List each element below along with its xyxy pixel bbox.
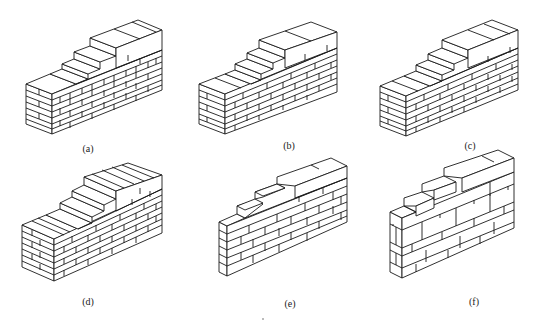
figure-caption-b: (b) <box>283 140 295 151</box>
figure-caption-c: (c) <box>464 140 475 151</box>
brick-wall-figure-c <box>376 16 526 141</box>
brick-wall-figure-a <box>20 12 170 137</box>
brick-wall-figure-d <box>18 163 168 288</box>
figure-caption-e: (e) <box>284 298 295 309</box>
stray-mark <box>262 318 264 320</box>
brick-wall-figure-b <box>195 22 345 147</box>
figure-caption-a: (a) <box>82 143 93 154</box>
figure-caption-d: (d) <box>82 296 94 307</box>
brick-wall-figure-f <box>386 168 526 283</box>
brick-wall-figure-e <box>215 170 355 280</box>
figure-caption-f: (f) <box>469 296 479 307</box>
